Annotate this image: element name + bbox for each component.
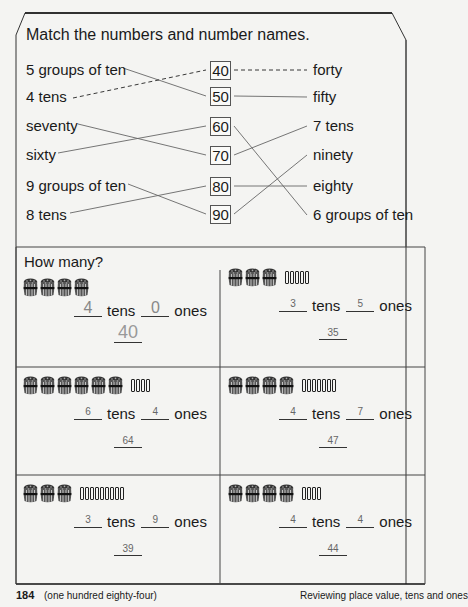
total-answer-blank[interactable]: 47 [319, 434, 347, 448]
tens-answer-blank[interactable]: 3 [74, 514, 102, 528]
ones-label: ones [379, 297, 412, 314]
one-stick-icon [307, 487, 311, 500]
ten-bundle-icon [57, 376, 72, 395]
answer-row: 4tens7ones [279, 405, 412, 422]
one-stick-icon [305, 271, 309, 284]
right-item[interactable]: eighty [313, 177, 353, 194]
left-item[interactable]: 5 groups of ten [26, 61, 126, 78]
total-answer-blank[interactable]: 40 [114, 322, 142, 343]
ones-label: ones [174, 513, 207, 530]
tens-answer-blank[interactable]: 4 [74, 300, 102, 317]
one-stick-icon [285, 271, 289, 284]
problem-cell: 4tens0ones40 [16, 270, 220, 377]
ten-bundle-icon [245, 268, 260, 287]
ones-answer-blank[interactable]: 4 [141, 406, 169, 420]
connection-line [234, 126, 307, 155]
ten-bundle-icon [40, 376, 55, 395]
total-answer-blank[interactable]: 64 [114, 434, 142, 448]
right-item[interactable]: 6 groups of ten [313, 206, 413, 223]
one-stick-icon [90, 487, 94, 500]
one-stick-icon [80, 487, 84, 500]
ten-bundle-icon [228, 484, 243, 503]
one-stick-icon [327, 379, 331, 392]
right-item[interactable]: fifty [313, 88, 336, 105]
tens-label: tens [312, 297, 340, 314]
connection-line [78, 124, 206, 155]
ones-sticks [302, 379, 337, 392]
page-number-words: (one hundred eighty-four) [44, 590, 157, 601]
ones-sticks [131, 379, 151, 392]
number-box[interactable]: 40 [210, 61, 231, 80]
base-ten-blocks [228, 484, 322, 503]
ones-label: ones [174, 405, 207, 422]
ten-bundle-icon [40, 484, 55, 503]
number-box[interactable]: 60 [210, 117, 231, 136]
base-ten-blocks [228, 268, 310, 287]
one-stick-icon [131, 379, 135, 392]
one-stick-icon [302, 487, 306, 500]
one-stick-icon [302, 379, 306, 392]
tens-answer-blank[interactable]: 3 [279, 298, 307, 312]
total-answer-blank[interactable]: 44 [319, 542, 347, 556]
right-item[interactable]: forty [313, 61, 342, 78]
ten-bundle-icon [262, 484, 277, 503]
tens-label: tens [107, 513, 135, 530]
answer-row: 4tens0ones [74, 300, 207, 319]
ones-answer-blank[interactable]: 4 [346, 514, 374, 528]
one-stick-icon [290, 271, 294, 284]
problem-cell: 3tens9ones39 [16, 476, 220, 583]
ones-answer-blank[interactable]: 9 [141, 514, 169, 528]
ones-answer-blank[interactable]: 5 [346, 298, 374, 312]
left-item[interactable]: 8 tens [26, 206, 67, 223]
ten-bundle-icon [40, 278, 55, 297]
tens-answer-blank[interactable]: 4 [279, 514, 307, 528]
ones-answer-blank[interactable]: 0 [141, 300, 169, 317]
connection-line [58, 126, 206, 153]
left-item[interactable]: 4 tens [26, 88, 67, 105]
one-stick-icon [115, 487, 119, 500]
connection-line [123, 68, 206, 96]
ten-bundle-icon [23, 278, 38, 297]
how-many-title: How many? [24, 253, 103, 270]
number-box[interactable]: 90 [210, 205, 231, 224]
connection-line [234, 126, 307, 215]
connection-line [234, 96, 307, 97]
one-stick-icon [317, 487, 321, 500]
one-stick-icon [300, 271, 304, 284]
ten-bundle-icon [279, 376, 294, 395]
one-stick-icon [146, 379, 150, 392]
ten-bundle-icon [262, 268, 277, 287]
ones-sticks [302, 487, 322, 500]
ones-answer-blank[interactable]: 7 [346, 406, 374, 420]
answer-row: 6tens4ones [74, 405, 207, 422]
ones-sticks [285, 271, 310, 284]
one-stick-icon [307, 379, 311, 392]
tens-label: tens [312, 513, 340, 530]
ones-label: ones [379, 405, 412, 422]
one-stick-icon [312, 487, 316, 500]
ten-bundle-icon [91, 376, 106, 395]
number-box[interactable]: 80 [210, 177, 231, 196]
ten-bundle-icon [262, 376, 277, 395]
base-ten-blocks [23, 278, 91, 297]
problem-cell: 3tens5ones35 [221, 260, 425, 367]
ten-bundle-icon [23, 376, 38, 395]
left-item[interactable]: sixty [26, 146, 56, 163]
one-stick-icon [317, 379, 321, 392]
left-item[interactable]: 9 groups of ten [26, 177, 126, 194]
left-item[interactable]: seventy [26, 117, 78, 134]
right-item[interactable]: ninety [313, 146, 353, 163]
ten-bundle-icon [245, 376, 260, 395]
tens-label: tens [107, 405, 135, 422]
number-box[interactable]: 50 [210, 87, 231, 106]
one-stick-icon [95, 487, 99, 500]
right-item[interactable]: 7 tens [313, 117, 354, 134]
number-box[interactable]: 70 [210, 146, 231, 165]
one-stick-icon [85, 487, 89, 500]
base-ten-blocks [228, 376, 337, 395]
total-answer-blank[interactable]: 35 [319, 326, 347, 340]
tens-answer-blank[interactable]: 4 [279, 406, 307, 420]
tens-answer-blank[interactable]: 6 [74, 406, 102, 420]
answer-row: 3tens5ones [279, 297, 412, 314]
total-answer-blank[interactable]: 39 [114, 542, 142, 556]
